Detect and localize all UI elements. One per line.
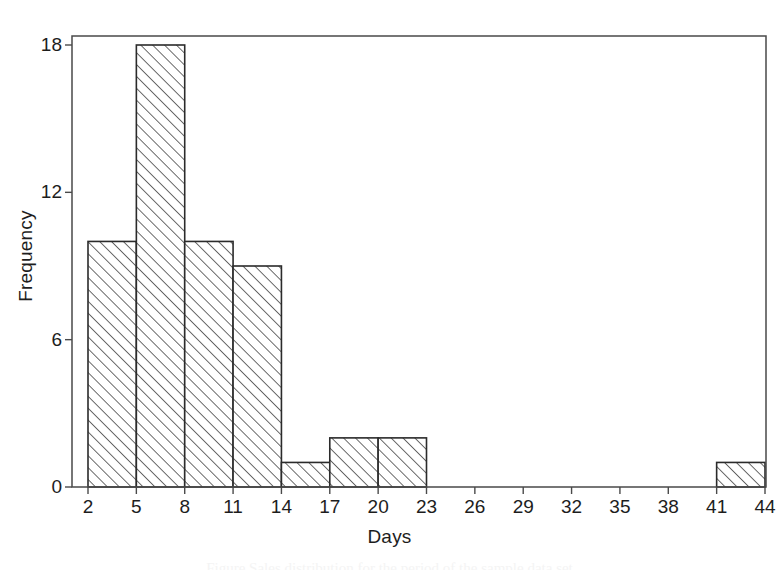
bars-layer <box>88 45 765 487</box>
x-tick-label: 2 <box>83 496 94 518</box>
x-axis-title: Days <box>0 526 779 548</box>
histogram-bar <box>233 266 281 487</box>
x-tick-label: 8 <box>179 496 190 518</box>
x-tick-label: 11 <box>223 496 243 518</box>
histogram-bar <box>330 438 378 487</box>
y-tick-label: 0 <box>18 476 62 498</box>
x-tick-label: 5 <box>131 496 142 518</box>
x-tick-label: 26 <box>464 496 485 518</box>
figure-caption: Figure Sales distribution for the period… <box>0 560 779 570</box>
y-tick-label: 18 <box>18 34 62 56</box>
y-tick-label: 12 <box>18 181 62 203</box>
histogram-figure: Days Frequency 2581114172023262932353841… <box>0 0 779 570</box>
histogram-bar <box>717 462 765 487</box>
x-tick-label: 29 <box>513 496 534 518</box>
x-tick-label: 17 <box>319 496 340 518</box>
x-tick-label: 35 <box>609 496 630 518</box>
histogram-bar <box>136 45 184 487</box>
histogram-bar <box>88 241 136 487</box>
x-tick-label: 38 <box>658 496 679 518</box>
y-axis-title: Frequency <box>15 186 37 326</box>
y-tick-label: 6 <box>18 329 62 351</box>
x-tick-label: 32 <box>561 496 582 518</box>
histogram-bar <box>281 462 329 487</box>
plot-canvas <box>0 0 779 570</box>
histogram-bar <box>378 438 426 487</box>
x-tick-label: 41 <box>706 496 727 518</box>
x-tick-label: 23 <box>416 496 437 518</box>
x-tick-label: 20 <box>368 496 389 518</box>
x-tick-label: 44 <box>754 496 775 518</box>
histogram-bar <box>185 241 233 487</box>
x-tick-label: 14 <box>271 496 292 518</box>
